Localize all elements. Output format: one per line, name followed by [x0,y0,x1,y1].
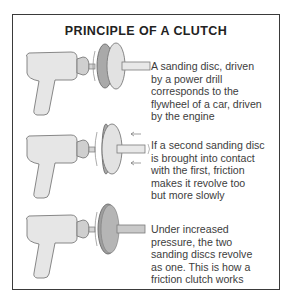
drill-contact-discs-illustration [17,118,151,200]
shaft [117,145,145,153]
pressure-arrow-icon [131,161,141,165]
caption-panel-2: If a second sanding disc is brought into… [151,139,279,202]
power-drill-icon [26,215,95,278]
drill-separated-discs-illustration [17,35,151,117]
rotation-arrow-icon [95,212,97,246]
shaft [117,225,145,233]
rotation-arrow-icon [148,144,150,154]
caption-panel-3: Under increased pressure, the two sandin… [151,223,279,286]
rotation-arrow-icon [95,132,97,166]
power-drill-icon [26,135,95,198]
diagram-frame: PRINCIPLE OF A CLUTCH A sanding disc, dr… [12,14,280,290]
caption-panel-1: A sanding disc, driven by a power drill … [151,60,279,123]
power-drill-icon [26,52,95,115]
drill-discs-as-one-illustration [17,198,151,280]
pressure-arrow-icon [131,132,141,136]
shaft [122,62,150,70]
